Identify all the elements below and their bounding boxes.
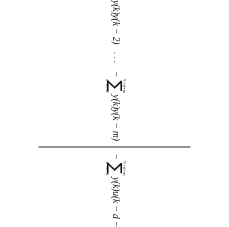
matrix-cell: − N+d+m ∑ k=m+d y(k)y(k − 2) (104, 0, 125, 44)
summation-group: N+d+m ∑ k=m+d (104, 161, 125, 175)
matrix-block-output-regressors: − N+d+m ∑ k=m+d y(k)y(k − 1) − N+d+m ∑ k… (104, 0, 125, 143)
sigma-icon: ∑ (108, 162, 121, 173)
minus-sign: − (110, 153, 120, 159)
summation-group: N+d+m ∑ k=m+d (104, 78, 125, 92)
ellipsis: ··· (110, 49, 120, 66)
summand-term: y(k)u(k − d − 1) (110, 176, 120, 227)
matrix-body: − N+d+m ∑ k=m+d y(k)y(k − 1) − N+d+m ∑ k… (32, 0, 198, 227)
summand-term: y(k)y(k − 2) (110, 0, 120, 44)
summand-term: y(k)y(k − m) (110, 94, 120, 140)
minus-sign: − (110, 71, 120, 77)
rotated-equation-stage: yTy= − N+d+m ∑ k=m+d y(k)y(k − 1) − (0, 0, 229, 227)
sigma-icon: ∑ (108, 80, 121, 91)
equation: yTy= − N+d+m ∑ k=m+d y(k)y(k − 1) − (29, 0, 201, 227)
matrix-cell: − N+d+m ∑ k=m+d y(k)y(k − m) (104, 71, 125, 140)
matrix-cell: − N+d+m ∑ k=m+d y(k)u(k − d − 1) (104, 153, 125, 227)
sum-lower-limit: k=m+d (104, 79, 109, 92)
sum-lower-limit: k=m+d (104, 161, 109, 174)
matrix-partition-line (39, 146, 191, 147)
matrix-block-input-regressors: − N+d+m ∑ k=m+d y(k)u(k − d − 1) ··· − N… (104, 150, 125, 227)
